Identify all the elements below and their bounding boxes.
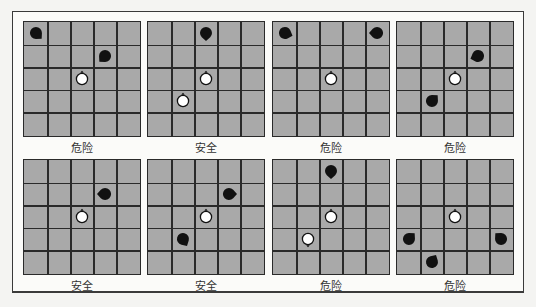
grid-line (397, 67, 513, 69)
grid-line (148, 228, 264, 230)
grid-line (273, 90, 389, 92)
grid-line (273, 205, 389, 207)
grid-line (397, 250, 513, 252)
grid-line (116, 22, 118, 136)
grid-line (397, 45, 513, 47)
black-piece-icon (425, 94, 439, 108)
black-piece-icon (29, 26, 43, 40)
grid-line (296, 160, 298, 274)
panel-label: 危险 (396, 139, 514, 155)
black-piece-icon (199, 26, 213, 40)
white-piece-icon (448, 72, 462, 86)
grid-line (489, 160, 491, 274)
grid-line (365, 160, 367, 274)
panel-label: 危险 (23, 139, 141, 155)
grid-line (240, 160, 242, 274)
grid-line (240, 22, 242, 136)
panel-label: 危险 (396, 277, 514, 293)
grid-line (148, 90, 264, 92)
black-piece-icon (324, 164, 338, 178)
grid-line (148, 67, 264, 69)
board (23, 21, 141, 137)
grid-line (93, 22, 95, 136)
grid-line (397, 183, 513, 185)
grid-line (47, 160, 49, 274)
grid-line (24, 183, 140, 185)
white-piece-icon (301, 232, 315, 246)
grid-line (466, 160, 468, 274)
grid-line (47, 22, 49, 136)
grid-line (489, 22, 491, 136)
grid-line (420, 160, 422, 274)
panel-label: 安全 (23, 277, 141, 293)
grid-line (93, 160, 95, 274)
grid-line (319, 22, 321, 136)
white-piece-icon (324, 72, 338, 86)
panel-label: 危险 (272, 139, 390, 155)
white-piece-icon (448, 210, 462, 224)
board (147, 21, 265, 137)
grid-line (420, 22, 422, 136)
grid-line (24, 45, 140, 47)
black-piece-icon (98, 187, 112, 201)
grid-line (24, 67, 140, 69)
board (396, 159, 514, 275)
grid-line (70, 160, 72, 274)
black-piece-icon (98, 49, 112, 63)
grid-line (24, 112, 140, 114)
grid-line (273, 67, 389, 69)
black-piece-icon (471, 49, 485, 63)
grid-line (273, 228, 389, 230)
black-piece-icon (402, 232, 416, 246)
grid-line (342, 160, 344, 274)
black-piece-icon (425, 255, 439, 269)
black-piece-icon (176, 232, 190, 246)
grid-line (24, 90, 140, 92)
grid-line (194, 22, 196, 136)
panel-label: 安全 (147, 277, 265, 293)
black-piece-icon (222, 187, 236, 201)
white-piece-icon (199, 72, 213, 86)
grid-line (24, 250, 140, 252)
grid-line (397, 112, 513, 114)
grid-line (397, 90, 513, 92)
black-piece-icon (494, 232, 508, 246)
grid-line (342, 22, 344, 136)
grid-line (273, 183, 389, 185)
board (147, 159, 265, 275)
white-piece-icon (324, 210, 338, 224)
grid-line (217, 160, 219, 274)
grid-line (194, 160, 196, 274)
white-piece-icon (75, 72, 89, 86)
grid-line (70, 22, 72, 136)
grid-line (273, 250, 389, 252)
grid-line (171, 22, 173, 136)
grid-line (443, 160, 445, 274)
grid-line (24, 205, 140, 207)
grid-line (365, 22, 367, 136)
board (272, 21, 390, 137)
grid-line (296, 22, 298, 136)
grid-line (397, 205, 513, 207)
black-piece-icon (278, 26, 292, 40)
black-piece-icon (370, 26, 384, 40)
grid-line (273, 112, 389, 114)
grid-line (466, 22, 468, 136)
board (23, 159, 141, 275)
grid-line (273, 45, 389, 47)
grid-line (116, 160, 118, 274)
figure-frame: 危险 安全 危险 危险 安全 安全 危险 危险 (12, 11, 524, 293)
grid-line (24, 228, 140, 230)
panel-label: 安全 (147, 139, 265, 155)
grid-line (148, 45, 264, 47)
grid-line (148, 205, 264, 207)
white-piece-icon (176, 94, 190, 108)
board (396, 21, 514, 137)
white-piece-icon (75, 210, 89, 224)
white-piece-icon (199, 210, 213, 224)
grid-line (148, 250, 264, 252)
grid-line (148, 183, 264, 185)
board (272, 159, 390, 275)
panel-label: 危险 (272, 277, 390, 293)
grid-line (217, 22, 219, 136)
